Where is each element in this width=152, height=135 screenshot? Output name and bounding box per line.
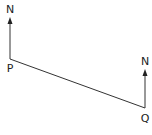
north-label-q: N [141, 55, 149, 68]
line-pq [10, 59, 145, 108]
point-label-p: P [7, 62, 14, 75]
north-arrow-icon-q [143, 69, 148, 76]
north-label-p: N [6, 3, 14, 16]
north-arrow-icon-p [8, 17, 13, 24]
point-label-q: Q [141, 112, 150, 125]
bearing-diagram: N P N Q [0, 0, 152, 135]
